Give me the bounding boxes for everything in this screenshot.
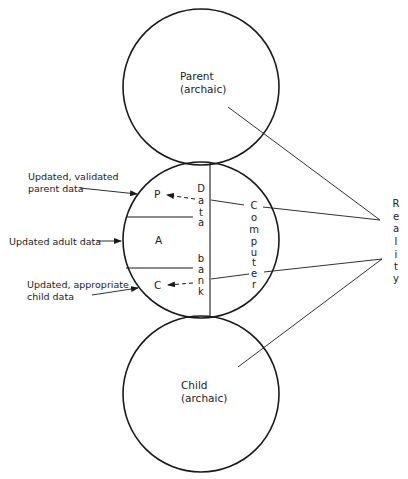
svg-text:C: C — [251, 200, 258, 211]
svg-text:a: a — [393, 223, 399, 234]
child-sublabel: (archaic) — [181, 392, 227, 404]
svg-text:D: D — [197, 183, 205, 194]
child-label: Child — [181, 379, 208, 391]
ego-state-diagram: Parent (archaic) Child (archaic) P A C D… — [0, 0, 408, 479]
svg-text:a: a — [198, 217, 204, 228]
reality-word: R e a l i t y — [393, 198, 400, 284]
parent-input-label-line2: parent data — [28, 183, 84, 194]
data-to-child-arrow — [168, 283, 193, 285]
parent-input-label-line1: Updated, validated — [28, 171, 119, 182]
region-adult-letter: A — [155, 234, 163, 246]
svg-text:y: y — [393, 273, 399, 284]
svg-text:o: o — [251, 212, 257, 223]
parent-label: Parent — [180, 70, 214, 82]
svg-text:b: b — [198, 253, 204, 264]
svg-text:e: e — [251, 268, 257, 279]
svg-text:t: t — [394, 261, 398, 272]
adult-input-label: Updated adult data — [9, 236, 101, 247]
computer-lower-inner-line — [211, 274, 249, 279]
data-word: D a t a — [197, 183, 205, 228]
svg-text:a: a — [198, 264, 204, 275]
computer-upper-outer-line — [263, 207, 380, 220]
child-input-label-line1: Updated, appropriate — [27, 279, 129, 290]
svg-text:m: m — [249, 224, 259, 235]
data-to-parent-arrow — [167, 195, 195, 199]
parent-data-arrow — [80, 188, 137, 194]
svg-text:l: l — [395, 236, 398, 247]
child-reality-line — [238, 259, 382, 367]
parent-sublabel: (archaic) — [180, 83, 226, 95]
bank-word: b a n k — [198, 253, 204, 297]
svg-text:a: a — [198, 195, 204, 206]
svg-text:i: i — [395, 249, 398, 260]
svg-text:p: p — [251, 236, 257, 247]
region-child-letter: C — [154, 279, 161, 291]
svg-text:R: R — [393, 198, 400, 209]
computer-word: C o m p u t e r — [249, 200, 259, 290]
svg-text:r: r — [252, 279, 257, 290]
region-parent-letter: P — [154, 188, 160, 200]
computer-lower-outer-line — [264, 259, 382, 272]
svg-text:t: t — [252, 257, 256, 268]
svg-text:n: n — [198, 275, 204, 286]
svg-text:k: k — [198, 286, 204, 297]
computer-upper-inner-line — [211, 200, 244, 205]
child-input-label-line2: child data — [27, 291, 74, 302]
svg-text:e: e — [393, 211, 399, 222]
